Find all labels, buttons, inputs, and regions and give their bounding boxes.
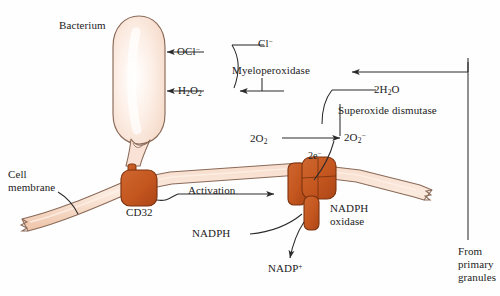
label-cl: Cl− <box>258 37 273 49</box>
diagram-svg <box>0 0 500 296</box>
arrow-oxidase-to-nadp <box>290 222 304 258</box>
label-myeloperoxidase: Myeloperoxidase <box>232 64 310 76</box>
label-2o2-minus: 2O2− <box>344 131 366 145</box>
label-ocl: OCl− <box>177 45 200 57</box>
label-cell-membrane: Cell membrane <box>8 168 55 194</box>
label-h2o2: H2O2 <box>178 84 202 98</box>
bacterium-shape <box>113 16 165 144</box>
label-bacterium: Bacterium <box>59 19 106 31</box>
curve-nadph-to-oxidase <box>250 214 302 234</box>
label-cd32: CD32 <box>126 206 153 218</box>
cell-membrane-shape <box>21 163 432 231</box>
label-superoxide-dismutase: Superoxide dismutase <box>338 104 437 116</box>
cd32-receptor-shape <box>121 164 157 206</box>
label-2o2: 2O2 <box>250 132 268 146</box>
label-nadph: NADPH <box>192 227 230 239</box>
diagram-canvas: Bacterium OCl− Cl− Myeloperoxidase H2O2 … <box>0 0 500 296</box>
label-activation: Activation <box>188 184 235 196</box>
curve-2h2o-down <box>322 90 332 124</box>
label-2h2o: 2H2O <box>374 83 400 97</box>
label-2e-minus: 2e− <box>308 150 322 161</box>
label-nadp-plus: NADP+ <box>268 262 303 274</box>
label-from-primary-granules: From primary granules <box>458 245 496 284</box>
label-nadph-oxidase: NADPH oxidase <box>330 202 368 228</box>
